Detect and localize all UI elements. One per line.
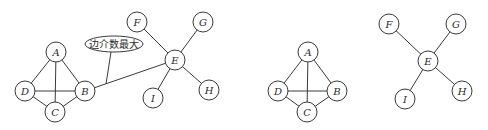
node-label: H — [204, 85, 214, 96]
edge-before-B-E — [85, 60, 175, 91]
node-label: C — [303, 107, 311, 118]
node-after-G: G — [446, 14, 466, 34]
callout-label: 边介数最大 — [89, 38, 139, 50]
node-before-D: D — [15, 81, 35, 101]
node-label: E — [170, 55, 179, 66]
node-label: G — [199, 17, 207, 28]
node-after-E: E — [418, 51, 438, 71]
node-after-B: B — [327, 81, 347, 101]
node-label: D — [273, 86, 282, 97]
node-before-I: I — [143, 88, 163, 108]
node-label: E — [423, 56, 432, 67]
node-label: F — [133, 17, 142, 28]
node-before-A: A — [46, 42, 66, 62]
node-label: B — [332, 86, 340, 97]
node-label: D — [20, 86, 29, 97]
node-after-C: C — [297, 102, 317, 122]
node-label: B — [80, 86, 88, 97]
node-label: G — [452, 19, 460, 30]
node-before-G: G — [193, 12, 213, 32]
node-label: H — [457, 86, 467, 97]
node-label: F — [385, 19, 394, 30]
node-label: C — [51, 107, 59, 118]
node-after-A: A — [298, 42, 318, 62]
node-after-F: F — [379, 14, 399, 34]
callout-layer: 边介数最大 — [85, 36, 143, 84]
node-before-H: H — [199, 80, 219, 100]
nodes-layer: ABCDEFGHIABCDEFGHI — [15, 12, 472, 122]
node-before-C: C — [45, 102, 65, 122]
node-before-B: B — [75, 81, 95, 101]
node-label: A — [51, 47, 59, 58]
node-after-H: H — [452, 81, 472, 101]
node-label: A — [303, 47, 311, 58]
node-after-D: D — [268, 81, 288, 101]
graph-diagram: 边介数最大 ABCDEFGHIABCDEFGHI — [0, 0, 488, 130]
node-after-I: I — [395, 89, 415, 109]
node-before-E: E — [165, 50, 185, 70]
node-before-F: F — [127, 12, 147, 32]
callout-pointer-line — [106, 52, 111, 84]
